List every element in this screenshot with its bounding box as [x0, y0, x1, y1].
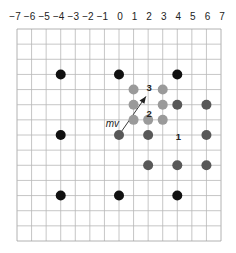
- dark-gray-dot: [143, 160, 153, 170]
- x-tick-label: 2: [146, 11, 152, 22]
- black-dot: [114, 191, 124, 201]
- black-dot: [56, 130, 66, 140]
- light-gray-dot: [158, 115, 168, 125]
- position-label: 1: [176, 131, 182, 142]
- light-gray-dot: [129, 85, 139, 95]
- light-gray-dot: [129, 115, 139, 125]
- dark-gray-dot: [201, 100, 211, 110]
- motion-vector-label: mv: [106, 118, 120, 129]
- black-dot: [114, 69, 124, 79]
- x-tick-label: 7: [219, 11, 225, 22]
- black-dot: [56, 191, 66, 201]
- x-tick-label: 6: [205, 11, 211, 22]
- x-tick-label: 5: [190, 11, 196, 22]
- dark-gray-dot: [201, 130, 211, 140]
- diagram-canvas: −7−6−5−4−3−2−101234567 mv 321: [0, 0, 236, 253]
- x-tick-label: −2: [82, 11, 94, 22]
- dark-gray-dot: [172, 160, 182, 170]
- x-tick-label: 3: [161, 11, 167, 22]
- black-dot: [172, 69, 182, 79]
- black-dot: [56, 69, 66, 79]
- x-axis-tick-labels: −7−6−5−4−3−2−101234567: [9, 11, 225, 22]
- motion-vector-diagram: −7−6−5−4−3−2−101234567 mv 321: [0, 0, 236, 253]
- x-tick-label: 0: [117, 11, 123, 22]
- position-label: 2: [146, 108, 151, 119]
- x-tick-label: −3: [68, 11, 80, 22]
- black-dot: [172, 191, 182, 201]
- x-tick-label: −5: [38, 11, 50, 22]
- arrowhead-icon: [139, 96, 145, 103]
- dark-gray-dot: [143, 130, 153, 140]
- x-tick-label: −7: [9, 11, 21, 22]
- x-tick-label: −4: [53, 11, 65, 22]
- dark-gray-dot: [172, 100, 182, 110]
- light-gray-dot: [158, 85, 168, 95]
- x-tick-label: −6: [24, 11, 36, 22]
- x-tick-label: −1: [97, 11, 109, 22]
- x-tick-label: 4: [176, 11, 182, 22]
- x-tick-label: 1: [132, 11, 138, 22]
- dark-gray-dot: [201, 160, 211, 170]
- dark-gray-dot: [114, 130, 124, 140]
- light-gray-dot: [129, 100, 139, 110]
- motion-vector-arrow: mv: [106, 96, 146, 135]
- position-label: 3: [146, 82, 151, 93]
- light-gray-dot: [158, 100, 168, 110]
